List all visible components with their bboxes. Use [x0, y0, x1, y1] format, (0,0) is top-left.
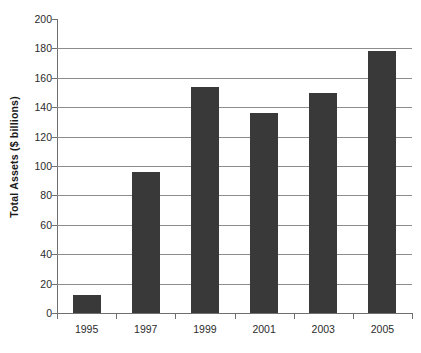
y-tick-label: 60 [26, 220, 52, 231]
y-tick-label: 120 [26, 131, 52, 142]
x-tick-label: 2003 [312, 323, 335, 335]
y-axis-tick-labels: 020406080100120140160180200 [22, 0, 52, 353]
y-tick-label: 100 [26, 161, 52, 172]
y-tick-label: 20 [26, 278, 52, 289]
x-tick-label: 2005 [371, 323, 394, 335]
bar [309, 93, 337, 314]
y-tick-label: 0 [26, 308, 52, 319]
x-axis-tick [353, 314, 354, 319]
y-tick-label: 160 [26, 73, 52, 84]
x-axis-tick [412, 314, 413, 319]
x-tick-label: 1999 [193, 323, 216, 335]
y-tick-label: 40 [26, 249, 52, 260]
bar-chart: Total Assets ($ billions) 02040608010012… [0, 0, 421, 353]
x-axis-tick [175, 314, 176, 319]
x-tick-label: 1997 [134, 323, 157, 335]
y-tick-label: 200 [26, 14, 52, 25]
plot-area [57, 19, 412, 313]
bar [191, 87, 219, 313]
bar [250, 113, 278, 313]
y-tick-label: 180 [26, 43, 52, 54]
bar [368, 51, 396, 313]
bar-series [57, 19, 412, 313]
x-axis-tick [235, 314, 236, 319]
y-axis-title-text: Total Assets ($ billions) [8, 96, 20, 218]
bar [73, 295, 101, 313]
x-tick-label: 1995 [75, 323, 98, 335]
bar [132, 172, 160, 313]
y-tick-label: 140 [26, 102, 52, 113]
x-axis-tick [116, 314, 117, 319]
x-axis-tick-labels: 199519971999200120032005 [57, 314, 412, 344]
y-tick-label: 80 [26, 190, 52, 201]
x-axis-tick [57, 314, 58, 319]
x-axis-tick [294, 314, 295, 319]
x-tick-label: 2001 [252, 323, 275, 335]
